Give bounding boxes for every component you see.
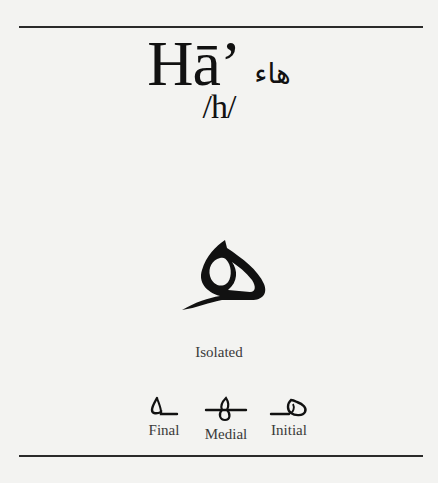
- form-final: Final: [142, 396, 186, 439]
- medial-form-glyph-icon: [204, 396, 248, 422]
- bottom-rule: [19, 455, 423, 457]
- form-medial: Medial: [198, 396, 254, 443]
- form-initial-label: Initial: [264, 422, 314, 439]
- initial-form-glyph-icon: [269, 396, 309, 418]
- final-form-glyph-icon: [149, 396, 179, 418]
- isolated-label: Isolated: [0, 344, 438, 361]
- form-final-label: Final: [142, 422, 186, 439]
- phoneme: /h/: [0, 90, 438, 124]
- letter-forms: Final Medial Initial: [140, 396, 320, 452]
- form-initial: Initial: [264, 396, 314, 439]
- isolated-glyph-icon: [170, 236, 270, 316]
- form-medial-label: Medial: [198, 426, 254, 443]
- letter-title: Hā’هاء: [0, 32, 438, 96]
- letter-name-arabic: هاء: [254, 57, 290, 90]
